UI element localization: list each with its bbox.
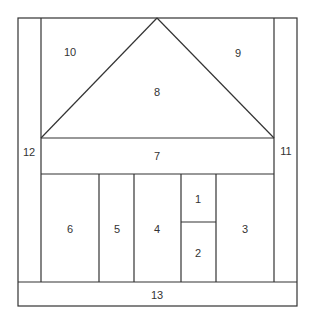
label-13: 13: [151, 289, 163, 301]
label-6: 6: [67, 223, 73, 235]
house-partition-diagram: 10 9 8 12 11 7 6 5 4 1 2 3 13: [0, 0, 315, 322]
label-2: 2: [195, 247, 201, 259]
label-11: 11: [280, 145, 291, 157]
label-3: 3: [242, 223, 248, 235]
label-12: 12: [23, 146, 35, 158]
label-9: 9: [235, 47, 241, 59]
triangle-right-edge: [157, 18, 274, 138]
label-7: 7: [154, 150, 160, 162]
triangle-left-edge: [41, 18, 157, 138]
label-4: 4: [154, 223, 160, 235]
label-8: 8: [154, 86, 160, 98]
label-1: 1: [195, 193, 201, 205]
outer-frame: [18, 18, 297, 306]
label-5: 5: [114, 223, 120, 235]
label-10: 10: [64, 46, 76, 58]
